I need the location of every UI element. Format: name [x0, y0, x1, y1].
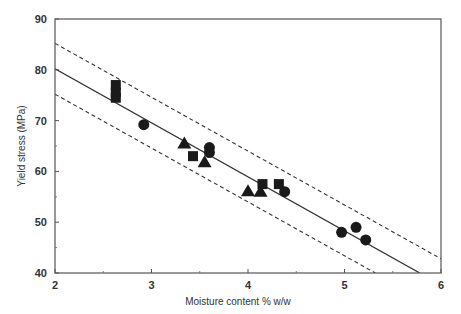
- circle-marker: [279, 186, 290, 197]
- square-marker: [111, 93, 121, 103]
- axis-ticks: 23456405060708090: [35, 13, 444, 291]
- circle-marker: [336, 227, 347, 238]
- square-marker: [188, 151, 198, 161]
- y-tick-label: 50: [35, 216, 47, 228]
- y-tick-label: 60: [35, 165, 47, 177]
- y-axis-title: Yield stress (MPa): [16, 105, 27, 186]
- x-tick-label: 5: [341, 279, 347, 291]
- y-tick-label: 80: [35, 64, 47, 76]
- y-tick-label: 40: [35, 267, 47, 279]
- circle-marker: [138, 119, 149, 130]
- fit-lines: [55, 43, 441, 273]
- triangle-marker: [241, 184, 255, 196]
- circle-marker: [351, 222, 362, 233]
- x-tick-label: 6: [438, 279, 444, 291]
- x-tick-label: 3: [148, 279, 154, 291]
- circle-marker: [360, 234, 371, 245]
- data-markers: [111, 80, 371, 245]
- plot-frame: [55, 19, 441, 273]
- x-tick-label: 4: [245, 279, 252, 291]
- x-axis-title: Moisture content % w/w: [185, 296, 291, 307]
- lower-bound-line: [55, 94, 375, 273]
- upper-bound-line: [55, 43, 441, 258]
- x-tick-label: 2: [52, 279, 58, 291]
- y-tick-label: 70: [35, 115, 47, 127]
- scatter-chart: 23456405060708090 Moisture content % w/w…: [0, 0, 461, 314]
- circle-marker: [204, 147, 215, 158]
- y-tick-label: 90: [35, 13, 47, 25]
